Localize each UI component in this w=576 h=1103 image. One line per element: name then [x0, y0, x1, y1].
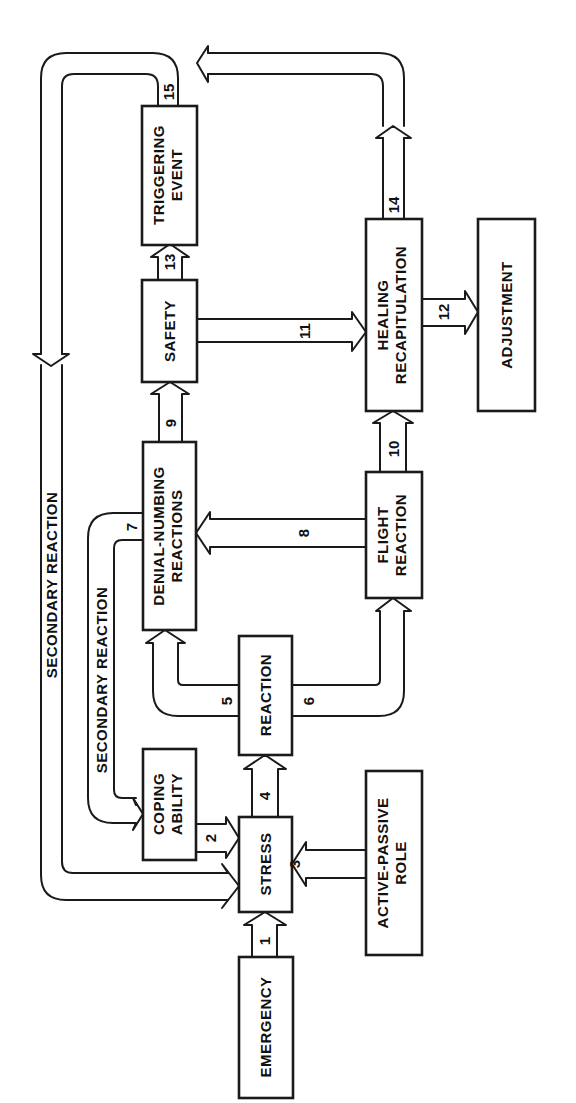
- edge-3: [292, 842, 366, 886]
- node-denial-line2: REACTIONS: [168, 490, 185, 583]
- edge-label-1: 1: [256, 937, 273, 945]
- node-stress-label: STRESS: [257, 832, 274, 895]
- node-triggering-event: TRIGGERING EVENT: [142, 106, 197, 245]
- edge-1: [244, 912, 286, 957]
- node-triggering-line1: TRIGGERING: [150, 125, 167, 225]
- node-flight-reaction: FLIGHT REACTION: [366, 472, 422, 598]
- edge-label-7: 7: [123, 523, 140, 531]
- edge-label-14: 14: [385, 196, 402, 213]
- node-reaction-label: REACTION: [257, 654, 274, 736]
- loop-label-outer: SECONDARY REACTION: [43, 492, 60, 679]
- node-healing-line1: HEALING: [374, 280, 391, 351]
- loop-label-inner: SECONDARY REACTION: [93, 587, 110, 774]
- node-stress: STRESS: [239, 817, 292, 912]
- flowchart-svg: TRIGGERING EVENT SAFETY DENIAL-NUMBING R…: [0, 0, 576, 1103]
- edge-label-2: 2: [202, 834, 219, 842]
- edge-label-9: 9: [162, 419, 179, 427]
- node-coping-ability: COPING ABILITY: [143, 749, 196, 860]
- node-triggering-line2: EVENT: [168, 149, 185, 202]
- node-adjustment: ADJUSTMENT: [478, 219, 535, 411]
- edge-label-3: 3: [286, 860, 303, 868]
- node-denial-numbing: DENIAL-NUMBING REACTIONS: [143, 442, 196, 630]
- edge-label-12: 12: [435, 304, 452, 321]
- node-active-passive-line2: ROLE: [392, 841, 409, 885]
- node-flight-line1: FLIGHT: [374, 506, 391, 563]
- edge-9: [151, 382, 189, 442]
- node-coping-line2: ABILITY: [168, 773, 185, 835]
- edge-label-4: 4: [256, 791, 273, 800]
- edge-label-10: 10: [385, 441, 402, 458]
- node-active-passive-role: ACTIVE-PASSIVE ROLE: [366, 771, 422, 955]
- node-reaction: REACTION: [239, 636, 292, 755]
- edge-8: [196, 512, 366, 554]
- node-active-passive-line1: ACTIVE-PASSIVE: [374, 798, 391, 929]
- node-healing-recapitulation: HEALING RECAPITULATION: [366, 219, 422, 411]
- edge-label-8: 8: [295, 529, 312, 537]
- node-healing-line2: RECAPITULATION: [392, 246, 409, 384]
- edge-14-loop: [197, 46, 411, 219]
- edge-4: [244, 755, 286, 817]
- diagram-canvas: TRIGGERING EVENT SAFETY DENIAL-NUMBING R…: [0, 0, 576, 1103]
- node-safety: SAFETY: [142, 280, 197, 382]
- node-denial-line1: DENIAL-NUMBING: [150, 466, 167, 606]
- node-adjustment-label: ADJUSTMENT: [498, 261, 515, 369]
- node-flight-line2: REACTION: [392, 494, 409, 576]
- node-emergency: EMERGENCY: [239, 957, 293, 1098]
- edge-label-15: 15: [160, 84, 177, 101]
- node-coping-line1: COPING: [150, 773, 167, 835]
- node-safety-label: SAFETY: [161, 300, 178, 362]
- edge-11: [197, 312, 366, 351]
- edge-label-11: 11: [296, 323, 313, 339]
- node-emergency-label: EMERGENCY: [257, 976, 274, 1077]
- edge-label-6: 6: [300, 697, 317, 705]
- edge-label-5: 5: [218, 697, 235, 705]
- edge-label-13: 13: [161, 254, 178, 271]
- edge-15-loop: [33, 53, 239, 908]
